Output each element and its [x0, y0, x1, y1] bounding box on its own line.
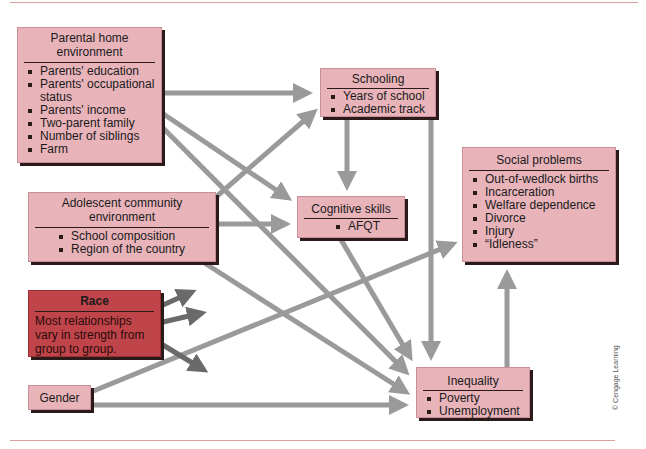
parental-home-list: Parents' education Parents' occupational… [18, 65, 161, 156]
social-problems-list: Out-of-wedlock births Incarceration Welf… [463, 173, 615, 251]
cognitive-skills-list: AFQT [298, 220, 404, 233]
edge-race-1 [163, 292, 192, 305]
inequality-list: Poverty Unemployment [417, 392, 529, 418]
race-description: Most relationships vary in strength from… [29, 314, 160, 356]
race-title: Race [29, 291, 160, 308]
divider [469, 170, 609, 171]
adolescent-community-title: Adolescent community environment [29, 193, 215, 224]
adolescent-community-box: Adolescent community environment School … [28, 192, 216, 262]
list-item: Unemployment [425, 405, 525, 418]
inequality-box: Inequality Poverty Unemployment [416, 367, 530, 418]
gender-box: Gender [28, 385, 91, 410]
list-item: Parents' occupational status [26, 78, 157, 104]
schooling-list: Years of school Academic track [321, 90, 435, 116]
parental-home-box: Parental home environment Parents' educa… [17, 27, 162, 163]
edge-adolescent-inequality [203, 262, 406, 392]
cognitive-skills-box: Cognitive skills AFQT [297, 196, 405, 238]
schooling-box: Schooling Years of school Academic track [320, 68, 436, 117]
divider [24, 62, 155, 63]
inequality-title: Inequality [417, 368, 529, 388]
gender-title: Gender [29, 386, 90, 405]
divider [35, 227, 209, 228]
list-item: “Idleness” [471, 238, 611, 251]
edge-race-2 [163, 313, 202, 322]
cognitive-skills-title: Cognitive skills [298, 197, 404, 216]
social-problems-title: Social problems [463, 148, 615, 167]
social-problems-box: Social problems Out-of-wedlock births In… [462, 147, 616, 262]
adolescent-community-list: School composition Region of the country [29, 230, 215, 256]
list-item: AFQT [334, 220, 400, 233]
edge-parental-cognitive [162, 113, 288, 198]
list-item: Academic track [329, 103, 431, 116]
copyright-credit: © Cengage Learning [612, 345, 619, 410]
divider [35, 311, 154, 312]
schooling-title: Schooling [321, 69, 435, 86]
list-item: Farm [26, 143, 157, 156]
list-item: Region of the country [57, 243, 211, 256]
parental-home-title: Parental home environment [18, 28, 161, 59]
race-box: Race Most relationships vary in strength… [28, 290, 161, 357]
